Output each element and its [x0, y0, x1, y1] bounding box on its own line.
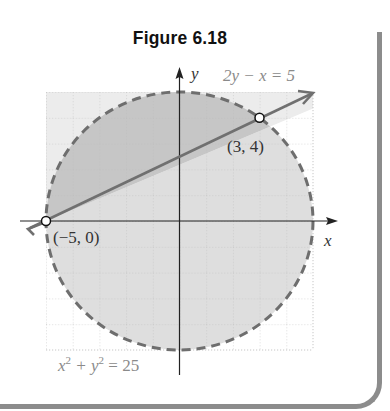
point-neg5-0: [42, 217, 51, 226]
point-neg5-0-label: (−5, 0): [53, 228, 99, 247]
region-plot: y x 2y − x = 5 (3, 4) (−5, 0) x2 + y2 = …: [0, 0, 390, 411]
y-axis-label: y: [189, 64, 199, 83]
x-axis-label: x: [323, 231, 332, 250]
point-3-4-label: (3, 4): [227, 137, 264, 156]
point-3-4: [255, 113, 264, 122]
line-equation-label: 2y − x = 5: [223, 66, 295, 85]
circle-equation-label: x2 + y2 = 25: [57, 354, 139, 375]
line-arrow-left-icon: [28, 223, 43, 235]
